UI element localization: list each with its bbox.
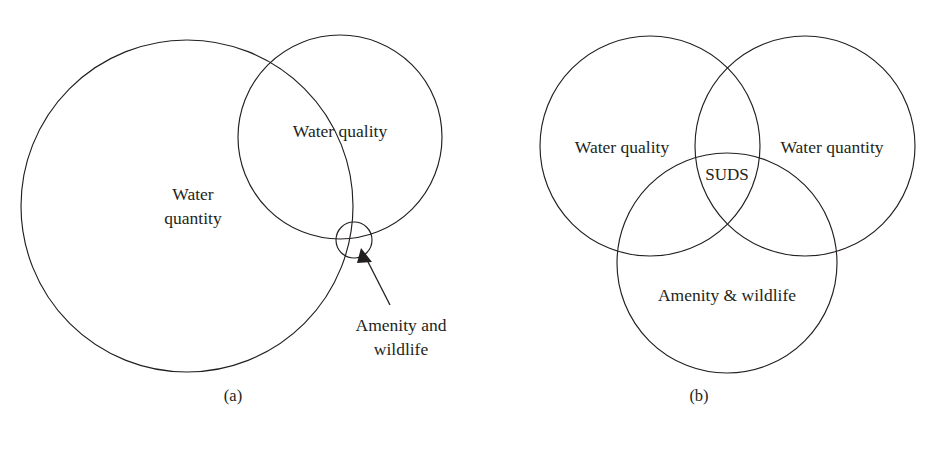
suds-intersection-label: SUDS: [705, 165, 748, 184]
water-quantity-label-a-line2: quantity: [164, 208, 222, 228]
panel-caption-b: (b): [466, 386, 932, 406]
water-quality-label-b: Water quality: [575, 137, 670, 157]
venn-diagram-b: Water quality Water quantity Amenity & w…: [466, 0, 932, 451]
water-quantity-label-b: Water quantity: [780, 137, 883, 157]
amenity-wildlife-label-b: Amenity & wildlife: [658, 285, 796, 305]
amenity-label-a-line1: Amenity and: [356, 315, 447, 335]
amenity-wildlife-circle-b: [617, 153, 837, 373]
figure-panel-b: Water quality Water quantity Amenity & w…: [466, 0, 932, 451]
callout-arrow-icon: [357, 248, 372, 263]
figure-page: Water quality Water quantity Amenity and…: [0, 0, 932, 451]
panel-caption-a: (a): [0, 386, 466, 406]
amenity-and-wildlife-circle-a: [336, 222, 372, 258]
figure-panel-a: Water quality Water quantity Amenity and…: [0, 0, 466, 451]
venn-diagram-a: Water quality Water quantity Amenity and…: [0, 0, 466, 451]
water-quality-label-a: Water quality: [293, 121, 388, 141]
water-quantity-label-a-line1: Water: [172, 184, 214, 204]
water-quantity-circle-a: [21, 40, 353, 372]
amenity-label-a-line2: wildlife: [374, 339, 429, 359]
